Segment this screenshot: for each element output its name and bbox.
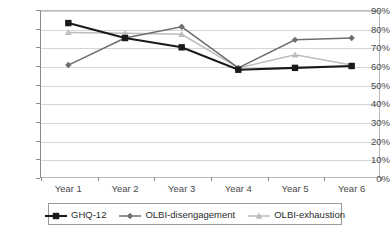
legend-marker-triangle-icon bbox=[248, 208, 270, 220]
data-point bbox=[235, 67, 241, 73]
data-point bbox=[292, 51, 299, 57]
data-point bbox=[348, 63, 354, 69]
series-line bbox=[68, 23, 351, 70]
legend-item-olbi-exhaustion[interactable]: OLBI-exhaustion bbox=[248, 208, 345, 220]
legend-label: GHQ-12 bbox=[71, 209, 106, 220]
legend-item-olbi-disengagement[interactable]: OLBI-disengagement bbox=[119, 208, 235, 220]
legend: GHQ-12OLBI-disengagementOLBI-exhaustion bbox=[48, 203, 342, 225]
series-layer bbox=[0, 0, 390, 235]
data-point bbox=[292, 37, 298, 43]
legend-item-ghq-12[interactable]: GHQ-12 bbox=[45, 208, 106, 220]
data-point bbox=[292, 65, 298, 71]
data-point bbox=[348, 35, 354, 41]
line-chart: 90%80%70%60%50%40%30%20%10%0% Year 1Year… bbox=[0, 0, 390, 235]
data-point bbox=[178, 44, 184, 50]
data-point bbox=[122, 35, 128, 41]
series-line bbox=[68, 32, 351, 67]
data-point bbox=[65, 20, 71, 26]
data-point bbox=[65, 62, 71, 68]
legend-marker-diamond-icon bbox=[119, 208, 141, 220]
legend-label: OLBI-disengagement bbox=[145, 209, 235, 220]
series-olbi-exhaustion bbox=[65, 29, 355, 71]
series-olbi-disengagement bbox=[65, 24, 355, 71]
legend-label: OLBI-exhaustion bbox=[274, 209, 345, 220]
legend-marker-square-icon bbox=[45, 208, 67, 220]
